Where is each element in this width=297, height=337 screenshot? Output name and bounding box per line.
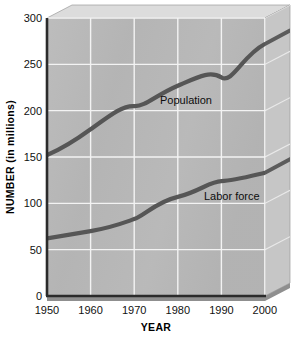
- y-tick-label-150: 150: [24, 151, 42, 163]
- y-tick-label-300: 300: [24, 12, 42, 24]
- y-tick-label-250: 250: [24, 58, 42, 70]
- plot-top-face: [47, 5, 290, 18]
- population-series-label: Population: [160, 94, 212, 106]
- x-tick-label-1950: 1950: [35, 304, 59, 316]
- y-tick-label-50: 50: [30, 244, 42, 256]
- y-tick-label-0: 0: [36, 290, 42, 302]
- chart-figure: 300 250 200 150 100 50 0 1950 1960 1970 …: [0, 0, 297, 337]
- x-tick-label-1960: 1960: [78, 304, 102, 316]
- y-tick-label-200: 200: [24, 105, 42, 117]
- labor-force-series-label: Labor force: [204, 190, 260, 202]
- y-axis-title: NUMBER (in millions): [4, 100, 16, 214]
- x-tick-label-2000: 2000: [253, 304, 277, 316]
- y-tick-label-100: 100: [24, 197, 42, 209]
- x-tick-label-1970: 1970: [122, 304, 146, 316]
- line-chart-svg: 300 250 200 150 100 50 0 1950 1960 1970 …: [0, 0, 297, 337]
- x-axis-title: YEAR: [141, 321, 171, 333]
- x-tick-label-1980: 1980: [166, 304, 190, 316]
- x-tick-label-1990: 1990: [209, 304, 233, 316]
